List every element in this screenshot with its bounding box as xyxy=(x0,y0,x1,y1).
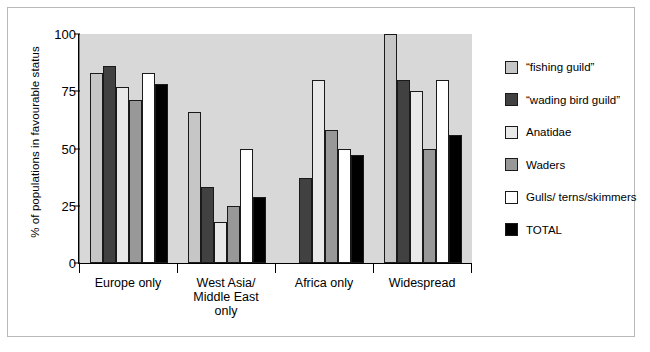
x-group-separator xyxy=(275,264,276,273)
bar-slot xyxy=(90,34,103,263)
bar-slot xyxy=(299,34,312,263)
legend-swatch xyxy=(505,93,518,106)
plot-area: 1007550250 xyxy=(79,34,472,263)
bar-slot xyxy=(449,34,462,263)
x-tick-label-line: Africa only xyxy=(275,276,373,290)
x-group-separator xyxy=(79,264,80,273)
x-tick-label: Widespread xyxy=(373,276,471,290)
bar-slot xyxy=(325,34,338,263)
bar-group xyxy=(80,34,178,263)
y-axis-title: % of populations in favourable status xyxy=(29,27,41,257)
chart-figure: % of populations in favourable status 10… xyxy=(7,7,635,337)
bar[interactable] xyxy=(338,149,351,264)
x-tick-label-line: West Asia/ xyxy=(177,276,275,290)
bar-slot xyxy=(338,34,351,263)
bar-slot xyxy=(397,34,410,263)
x-group-separator xyxy=(471,264,472,273)
legend-swatch xyxy=(505,126,518,139)
x-tick-label-line: Widespread xyxy=(373,276,471,290)
bar-slot xyxy=(351,34,364,263)
legend-label: Anatidae xyxy=(526,126,571,138)
bar[interactable] xyxy=(155,84,168,263)
bar[interactable] xyxy=(188,112,201,263)
legend-label: Gulls/ terns/skimmers xyxy=(526,191,637,203)
bar[interactable] xyxy=(253,197,266,263)
x-tick-label-line: Middle East xyxy=(177,290,275,304)
bar[interactable] xyxy=(129,100,142,263)
bar-slot xyxy=(240,34,253,263)
bar-group xyxy=(276,34,374,263)
bar-slot xyxy=(410,34,423,263)
bar[interactable] xyxy=(116,87,129,263)
bar-slot xyxy=(103,34,116,263)
bar-slot xyxy=(142,34,155,263)
bar-group xyxy=(374,34,472,263)
legend-label: “wading bird guild” xyxy=(526,94,620,106)
bar-slot xyxy=(384,34,397,263)
x-tick-label-line: only xyxy=(177,304,275,318)
bar-slot xyxy=(201,34,214,263)
legend-item[interactable]: TOTAL xyxy=(505,223,645,237)
bar[interactable] xyxy=(410,91,423,263)
bar-slot xyxy=(214,34,227,263)
legend-label: TOTAL xyxy=(526,224,562,236)
x-tick-label: Africa only xyxy=(275,276,373,290)
legend-swatch xyxy=(505,61,518,74)
y-tick-label: 100 xyxy=(54,28,76,41)
chart-legend: “fishing guild”“wading bird guild”Anatid… xyxy=(505,60,645,255)
bar-slot xyxy=(116,34,129,263)
bar[interactable] xyxy=(312,80,325,263)
bar[interactable] xyxy=(299,178,312,263)
bar[interactable] xyxy=(436,80,449,263)
legend-item[interactable]: Anatidae xyxy=(505,125,645,139)
x-tick-label: West Asia/Middle Eastonly xyxy=(177,276,275,318)
x-group-separator xyxy=(373,264,374,273)
legend-swatch xyxy=(505,158,518,171)
bar-slot xyxy=(155,34,168,263)
bar[interactable] xyxy=(397,80,410,263)
legend-item[interactable]: Gulls/ terns/skimmers xyxy=(505,190,645,204)
bar[interactable] xyxy=(384,34,397,263)
legend-swatch xyxy=(505,191,518,204)
bar-slot xyxy=(188,34,201,263)
legend-item[interactable]: “wading bird guild” xyxy=(505,93,645,107)
bar[interactable] xyxy=(240,149,253,264)
x-tick-label-line: Europe only xyxy=(79,276,177,290)
legend-label: “fishing guild” xyxy=(526,61,594,73)
legend-item[interactable]: Waders xyxy=(505,158,645,172)
legend-swatch xyxy=(505,223,518,236)
bar[interactable] xyxy=(325,130,338,263)
bar[interactable] xyxy=(103,66,116,263)
x-tick-label: Europe only xyxy=(79,276,177,290)
bar[interactable] xyxy=(201,187,214,263)
bar-groups xyxy=(80,34,472,263)
bar-slot xyxy=(129,34,142,263)
bar-group xyxy=(178,34,276,263)
x-group-separator xyxy=(177,264,178,273)
bar-slot xyxy=(436,34,449,263)
bar-slot xyxy=(423,34,436,263)
bar[interactable] xyxy=(423,149,436,264)
legend-item[interactable]: “fishing guild” xyxy=(505,60,645,74)
bar-slot xyxy=(227,34,240,263)
bar[interactable] xyxy=(214,222,227,263)
bar[interactable] xyxy=(449,135,462,263)
bar[interactable] xyxy=(227,206,240,263)
legend-label: Waders xyxy=(526,159,565,171)
bar[interactable] xyxy=(90,73,103,263)
bar[interactable] xyxy=(142,73,155,263)
bar-slot xyxy=(312,34,325,263)
bar-slot xyxy=(253,34,266,263)
bar-slot xyxy=(286,34,299,263)
bar[interactable] xyxy=(351,155,364,263)
